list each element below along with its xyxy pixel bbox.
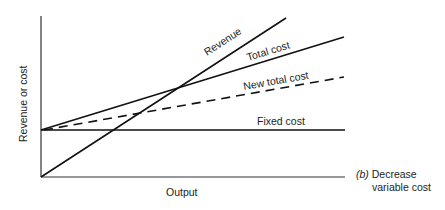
total-cost-label: Total cost <box>245 38 291 62</box>
caption-line1: Decrease <box>372 168 417 180</box>
y-axis-label: Revenue or cost <box>17 65 29 142</box>
figure-caption: (b) Decrease variable cost <box>356 168 431 194</box>
revenue-label: Revenue <box>202 25 244 58</box>
caption-letter: (b) <box>356 168 369 180</box>
revenue-line <box>41 18 286 177</box>
fixed-cost-label: Fixed cost <box>257 115 305 127</box>
new-total-cost-label: New total cost <box>242 69 309 92</box>
x-axis-label: Output <box>166 186 198 198</box>
caption-line2: variable cost <box>356 181 431 194</box>
